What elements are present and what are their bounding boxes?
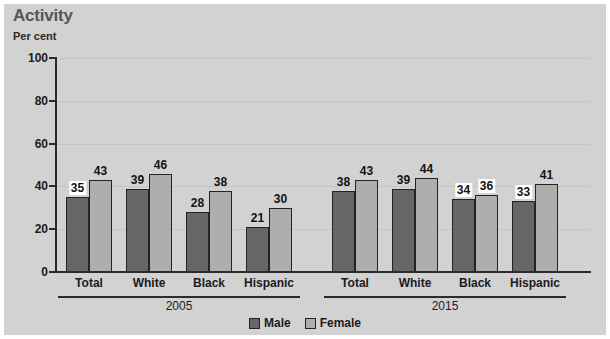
bar-2005-black-female	[209, 191, 232, 272]
bar-2005-total-female	[89, 180, 112, 272]
y-tick-label-80: 80	[4, 94, 48, 108]
bar-2015-white-female	[415, 178, 438, 272]
bar-2015-hispanic-female	[535, 184, 558, 272]
bar-value-label: 46	[154, 158, 167, 172]
year-bracket-rule	[58, 296, 300, 298]
bar-value-label: 43	[360, 164, 373, 178]
plot-area: 35392821383934334346383043443641	[56, 58, 590, 272]
x-axis-line	[55, 271, 591, 273]
gridline-60	[56, 144, 590, 145]
bar-value-label: 39	[131, 173, 144, 187]
legend-item-male[interactable]: Male	[249, 316, 291, 330]
bar-value-label: 38	[337, 175, 350, 189]
bar-value-label: 38	[214, 175, 227, 189]
y-tick-label-100: 100	[4, 51, 48, 65]
x-category-label-black: Black	[193, 276, 225, 290]
bar-2005-white-male	[126, 189, 149, 272]
legend-swatch-female	[305, 318, 316, 329]
x-category-label-white: White	[399, 276, 432, 290]
legend-label-male: Male	[264, 316, 291, 330]
bar-2015-black-female	[475, 195, 498, 272]
y-tick-label-40: 40	[4, 179, 48, 193]
gridline-40	[56, 186, 590, 187]
bar-value-label: 35	[69, 181, 86, 195]
bar-2015-total-female	[355, 180, 378, 272]
bar-2015-white-male	[392, 189, 415, 272]
bar-value-label: 41	[540, 168, 553, 182]
x-category-label-total: Total	[75, 276, 103, 290]
bar-2005-hispanic-female	[269, 208, 292, 272]
chart-figure: Activity Per cent 020406080100 353928213…	[0, 0, 610, 339]
y-tick-label-0: 0	[4, 265, 48, 279]
legend-label-female: Female	[320, 316, 361, 330]
bar-2005-total-male	[66, 197, 89, 272]
bar-2005-black-male	[186, 212, 209, 272]
bar-value-label: 36	[478, 179, 495, 193]
year-label-2005: 2005	[166, 299, 193, 313]
legend-swatch-male	[249, 318, 260, 329]
bar-2015-black-male	[452, 199, 475, 272]
bar-2005-white-female	[149, 174, 172, 272]
year-label-2015: 2015	[432, 299, 459, 313]
legend-item-female[interactable]: Female	[305, 316, 361, 330]
x-category-label-black: Black	[459, 276, 491, 290]
bar-value-label: 43	[94, 164, 107, 178]
bar-value-label: 34	[455, 183, 472, 197]
gridline-80	[56, 101, 590, 102]
gridline-100	[56, 58, 590, 59]
x-category-label-hispanic: Hispanic	[244, 276, 294, 290]
bar-value-label: 33	[515, 185, 532, 199]
x-category-label-white: White	[133, 276, 166, 290]
year-bracket-rule	[324, 296, 566, 298]
bar-2015-hispanic-male	[512, 201, 535, 272]
y-axis-tick-labels: 020406080100	[0, 0, 48, 339]
y-tick-label-20: 20	[4, 222, 48, 236]
bar-2005-hispanic-male	[246, 227, 269, 272]
y-tick-label-60: 60	[4, 137, 48, 151]
bar-value-label: 21	[251, 211, 264, 225]
x-category-label-hispanic: Hispanic	[510, 276, 560, 290]
bar-value-label: 30	[274, 192, 287, 206]
bar-value-label: 28	[191, 196, 204, 210]
bar-value-label: 44	[420, 162, 433, 176]
x-category-label-total: Total	[341, 276, 369, 290]
bar-2015-total-male	[332, 191, 355, 272]
bar-value-label: 39	[397, 173, 410, 187]
chart-legend: MaleFemale	[0, 316, 610, 330]
y-axis-line	[55, 57, 57, 273]
